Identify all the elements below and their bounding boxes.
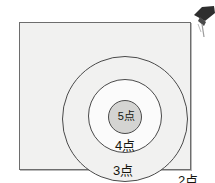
score-label-3: 3点 — [103, 164, 143, 177]
score-label-5: 5点 — [109, 111, 143, 122]
score-label-4: 4点 — [105, 139, 145, 152]
target-board-figure: 5点 4点 3点 2点 — [0, 0, 215, 183]
dart-icon — [192, 4, 215, 38]
board-frame: 5点 4点 3点 2点 — [19, 22, 191, 170]
score-label-2: 2点 — [168, 174, 208, 183]
score-ring-5: 5点 — [108, 100, 142, 134]
